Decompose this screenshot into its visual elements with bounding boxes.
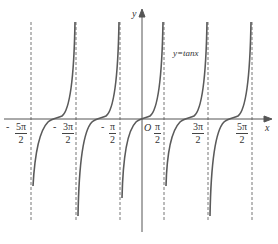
- tick-denominator: 2: [155, 134, 160, 145]
- tick-denominator: 2: [66, 134, 71, 145]
- tick-numerator: 5π: [15, 122, 27, 134]
- tick-numerator: 5π: [236, 122, 248, 134]
- origin-label: O: [144, 123, 151, 133]
- tick-denominator: 2: [110, 134, 115, 145]
- tick-minus-sign: -: [101, 121, 104, 132]
- tick-label-5pi-2: 5π 2: [236, 122, 248, 145]
- x-axis-label: x: [265, 123, 269, 133]
- tick-numerator: 3π: [192, 122, 204, 134]
- tick-minus-sign: -: [53, 121, 56, 132]
- tan-branch-4: [166, 22, 207, 186]
- tick-numerator: π: [154, 122, 161, 134]
- tick-denominator: 2: [196, 134, 201, 145]
- function-label: y=tanx: [173, 49, 199, 58]
- tick-denominator: 2: [19, 134, 24, 145]
- tick-numerator: π: [109, 122, 116, 134]
- tick-numerator: 3π: [62, 122, 74, 134]
- tick-label-pi-2: π 2: [154, 122, 161, 145]
- tick-label-3pi-2: 3π 2: [192, 122, 204, 145]
- y-axis-arrow-icon: [139, 9, 145, 17]
- y-axis-label: y: [132, 9, 136, 19]
- tick-label-neg-pi-2: π 2: [109, 122, 116, 145]
- tick-minus-sign: -: [6, 121, 9, 132]
- tan-branch-1: [33, 22, 75, 186]
- tick-denominator: 2: [240, 134, 245, 145]
- tick-label-neg-3pi-2: 3π 2: [62, 122, 74, 145]
- tick-label-neg-5pi-2: 5π 2: [15, 122, 27, 145]
